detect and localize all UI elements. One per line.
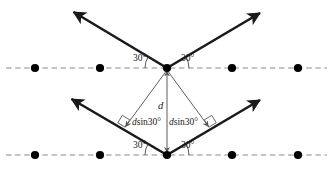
atom-upper-2	[96, 64, 104, 72]
atom-lower-4	[228, 151, 236, 159]
angle-label-lower-left: 30°	[133, 141, 146, 151]
path-difference-right-sin: sin30°	[174, 117, 198, 127]
right-angle-left	[118, 115, 130, 127]
diagram-canvas: 30° 30° 30° 30° d dsin30° dsin30°	[0, 0, 333, 171]
upper-ray-pair	[74, 12, 261, 68]
lower-ray-pair	[72, 99, 261, 155]
angle-label-upper-right: 30°	[181, 54, 194, 64]
spacing-label: d	[158, 101, 163, 112]
atom-upper-1	[31, 64, 39, 72]
atom-upper-3	[163, 64, 171, 72]
atom-lower-1	[31, 151, 39, 159]
atom-lower-2	[96, 151, 104, 159]
atom-upper-4	[228, 64, 236, 72]
atom-upper-5	[294, 64, 302, 72]
path-difference-left-sin: sin30°	[137, 117, 161, 127]
angle-label-lower-right: 30°	[181, 141, 194, 151]
lattice-atoms	[31, 64, 302, 159]
atom-lower-5	[294, 151, 302, 159]
angle-label-upper-left: 30°	[133, 54, 146, 64]
path-difference-label-right: dsin30°	[169, 118, 198, 128]
bragg-diffraction-figure	[0, 0, 333, 171]
crystal-planes	[6, 68, 327, 155]
atom-lower-3	[163, 151, 171, 159]
path-difference-label-left: dsin30°	[132, 118, 161, 128]
incident-ray-upper	[74, 12, 168, 68]
right-angle-right	[204, 115, 216, 127]
